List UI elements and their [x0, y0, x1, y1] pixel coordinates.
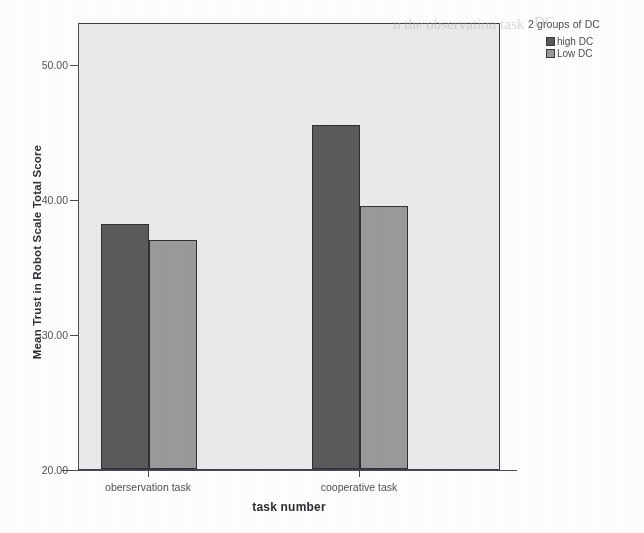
bar-chart-figure: 50.00 40.00 30.00 20.00 oberservation ta… [0, 0, 644, 533]
bar-high-dc-cooperative-task [312, 125, 360, 469]
legend-label-low-dc: Low DC [557, 48, 593, 59]
legend-swatch-high-dc [546, 37, 555, 46]
legend-item-high-dc: high DC [546, 36, 640, 47]
x-tick-mark-oberservation-task [148, 470, 149, 477]
legend-item-low-dc: Low DC [546, 48, 640, 59]
x-category-label-oberservation-task: oberservation task [105, 481, 191, 493]
x-tick-mark-cooperative-task [359, 470, 360, 477]
y-tick-mark-30 [70, 335, 78, 336]
bar-high-dc-oberservation-task [101, 224, 149, 469]
bar-low-dc-cooperative-task [360, 206, 408, 469]
plot-area [78, 23, 500, 470]
y-axis-line [78, 23, 79, 471]
legend-label-high-dc: high DC [557, 36, 593, 47]
x-axis-line [62, 470, 517, 471]
y-tick-mark-40 [70, 200, 78, 201]
x-axis-title: task number [78, 500, 500, 514]
legend: 2 groups of DC high DC Low DC [528, 18, 640, 60]
y-axis-title: Mean Trust in Robot Scale Total Score [31, 32, 43, 472]
plot-inner [79, 24, 499, 469]
y-tick-mark-50 [70, 65, 78, 66]
x-category-label-cooperative-task: cooperative task [321, 481, 397, 493]
bar-low-dc-oberservation-task [149, 240, 197, 469]
legend-swatch-low-dc [546, 49, 555, 58]
legend-title: 2 groups of DC [528, 18, 640, 30]
